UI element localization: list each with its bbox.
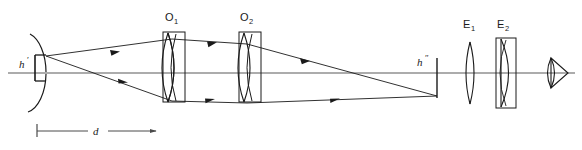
lens-e1-label: E 1	[463, 18, 475, 33]
image-height-text: h	[417, 56, 423, 68]
lens-e2-label-subscript: 2	[505, 24, 509, 33]
optical-diagram: h ′	[0, 0, 582, 150]
lens-o1-label: O 1	[165, 11, 178, 26]
lens-e1-label-text: E	[463, 18, 470, 30]
image-height-prime: ″	[425, 53, 429, 63]
dimension-d-label: d	[93, 125, 99, 137]
lens-e2-label-text: E	[497, 18, 504, 30]
lens-e2-label: E 2	[497, 18, 509, 33]
lens-o2-label: O 2	[240, 11, 253, 26]
ray-upper-seg1	[46, 39, 172, 56]
dimension-d: d	[37, 124, 156, 137]
ray-lower-seg3	[247, 96, 437, 103]
lens-o2-label-subscript: 2	[249, 17, 253, 26]
object-height-label: h ′	[19, 55, 29, 70]
lens-o2	[238, 32, 261, 102]
ray-upper-seg3	[247, 44, 437, 96]
image-height-label: h ″	[417, 53, 429, 68]
object-height-prime: ′	[27, 55, 29, 65]
ray-lower-seg1	[46, 56, 172, 101]
object-height-text: h	[19, 58, 25, 70]
ray-arrowheads	[110, 42, 340, 104]
lens-o2-label-text: O	[240, 11, 249, 23]
lens-e1-label-subscript: 1	[471, 24, 475, 33]
lens-o1-label-text: O	[165, 11, 174, 23]
lens-o1	[162, 32, 185, 102]
lens-o1-label-subscript: 1	[174, 17, 178, 26]
optics-svg: h ′	[0, 0, 582, 150]
